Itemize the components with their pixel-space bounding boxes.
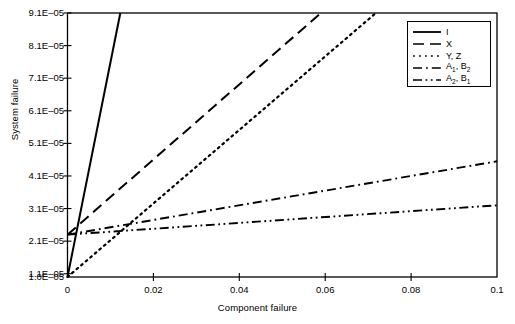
chart-figure: System failure Component failure 1.0E–05… (0, 0, 515, 324)
series-line (68, 161, 498, 234)
legend-swatch (412, 27, 442, 37)
legend-swatch (412, 51, 442, 61)
legend-swatch (412, 39, 442, 49)
legend-label: A1, B2 (446, 62, 470, 73)
series-line (68, 13, 376, 277)
series-line (68, 205, 498, 234)
tick-marks (64, 13, 412, 281)
legend-item: Y, Z (412, 50, 461, 62)
legend-swatch (412, 63, 442, 73)
legend-item: A2, B1 (412, 74, 470, 86)
legend: IXY, ZA1, B2A2, B1 (407, 21, 491, 87)
legend-label: I (446, 28, 449, 37)
series-line (68, 13, 321, 235)
legend-item: A1, B2 (412, 62, 470, 74)
legend-item: X (412, 38, 452, 50)
legend-label: X (446, 40, 452, 49)
legend-item: I (412, 26, 449, 38)
legend-label: A2, B1 (446, 74, 470, 85)
legend-swatch (412, 75, 442, 85)
legend-label: Y, Z (446, 52, 461, 61)
